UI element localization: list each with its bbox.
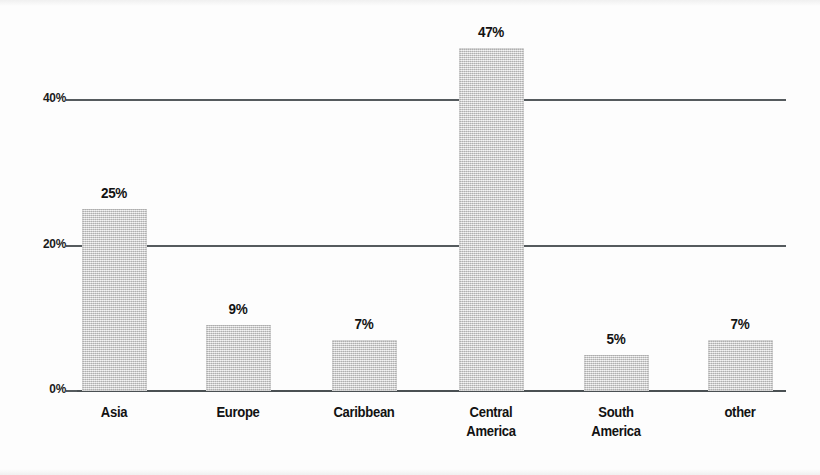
category-label-asia: Asia xyxy=(56,403,173,422)
category-label-line1: South xyxy=(598,404,633,420)
value-label-asia: 25% xyxy=(60,184,168,201)
value-label-caribbean: 7% xyxy=(310,315,418,332)
bar-europe[interactable] xyxy=(206,325,271,391)
value-label-central-america: 47% xyxy=(437,23,545,40)
gridline-20 xyxy=(77,245,786,247)
value-label-europe: 9% xyxy=(184,300,292,317)
category-label-line2: America xyxy=(558,422,675,441)
category-label-central-america: Central America xyxy=(433,403,550,441)
ytick-label-40: 40% xyxy=(24,90,66,105)
axis-baseline-0 xyxy=(77,390,786,392)
ytick-mark-40 xyxy=(66,99,77,101)
category-label-line1: Europe xyxy=(216,404,259,420)
category-label-line1: Asia xyxy=(101,404,127,420)
category-label-line1: other xyxy=(724,404,755,420)
category-label-south-america: South America xyxy=(558,403,675,441)
category-label-europe: Europe xyxy=(180,403,297,422)
bar-chart: 40% 20% 0% 25% Asia 9% Europe 7% Caribbe… xyxy=(0,0,820,475)
ytick-label-20: 20% xyxy=(24,236,66,251)
category-label-line2: America xyxy=(433,422,550,441)
category-label-line1: Central xyxy=(470,404,513,420)
category-label-line1: Caribbean xyxy=(333,404,394,420)
bar-south-america[interactable] xyxy=(584,355,649,391)
gridline-40 xyxy=(77,99,786,101)
category-label-other: other xyxy=(682,403,799,422)
ytick-label-0: 0% xyxy=(24,381,66,396)
value-label-south-america: 5% xyxy=(562,330,670,347)
plot-area: 40% 20% 0% 25% Asia 9% Europe 7% Caribbe… xyxy=(0,0,820,475)
bar-asia[interactable] xyxy=(82,209,147,391)
ytick-mark-0 xyxy=(66,390,77,392)
value-label-other: 7% xyxy=(686,315,794,332)
ytick-mark-20 xyxy=(66,245,77,247)
bar-other[interactable] xyxy=(708,340,773,391)
bar-caribbean[interactable] xyxy=(332,340,397,391)
bar-central-america[interactable] xyxy=(459,48,524,391)
category-label-caribbean: Caribbean xyxy=(306,403,423,422)
